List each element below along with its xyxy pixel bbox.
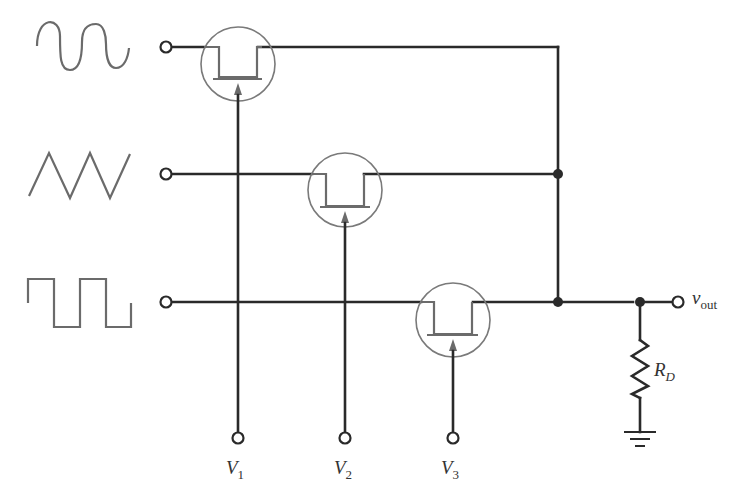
label-main: R	[654, 359, 666, 380]
gate-terminal-1	[233, 433, 244, 444]
gate-arrow-icon	[449, 339, 457, 351]
label-main: V	[226, 457, 238, 478]
input-terminal-1	[161, 42, 172, 53]
circuit-diagram	[0, 0, 737, 501]
label-main: V	[334, 457, 346, 478]
label-sub: 1	[238, 467, 245, 482]
ground-icon	[625, 432, 655, 446]
mosfet-switch-2	[308, 153, 382, 227]
label-sub: D	[666, 369, 675, 384]
label-v2: V2	[334, 458, 352, 477]
mosfet-switch-3	[416, 283, 490, 357]
label-v1: V1	[226, 458, 244, 477]
junction-dot	[553, 169, 563, 179]
gate-arrow-icon	[234, 83, 242, 95]
gate-terminal-2	[340, 433, 351, 444]
label-main: V	[441, 457, 453, 478]
gate-terminal-3	[448, 433, 459, 444]
gate-arrow-icon	[341, 211, 349, 223]
label-vout: vout	[692, 288, 717, 307]
junction-dot	[553, 297, 563, 307]
triangle-wave-icon	[29, 153, 130, 198]
mosfet-switch-1	[201, 27, 275, 101]
resistor-icon	[632, 340, 648, 398]
input-terminal-2	[161, 169, 172, 180]
label-sub: 2	[346, 467, 353, 482]
square-wave-icon	[28, 279, 131, 327]
sine-wave-icon	[37, 22, 129, 70]
label-rd: RD	[654, 360, 675, 379]
input-terminal-3	[161, 297, 172, 308]
output-terminal	[673, 297, 684, 308]
label-sub: out	[700, 297, 717, 312]
label-sub: 3	[453, 467, 460, 482]
label-v3: V3	[441, 458, 459, 477]
